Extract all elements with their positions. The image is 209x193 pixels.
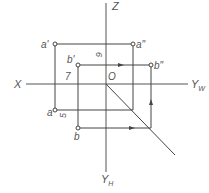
point-b-front <box>76 63 80 67</box>
label-a-side: a" <box>136 39 146 50</box>
arrow-right-icon <box>129 126 135 130</box>
point-b-top <box>76 126 80 130</box>
projection-diagram: X Z YW YH O a' a" a b' b" b 6 7 5 <box>0 0 209 193</box>
point-a-top <box>53 108 57 112</box>
label-b-top: b <box>74 131 80 142</box>
yw-axis-label: YW <box>191 78 206 92</box>
dimension-7: 7 <box>65 71 71 82</box>
45-degree-line <box>106 84 175 155</box>
arrow-up-icon <box>149 99 153 105</box>
label-a-front: a' <box>41 39 50 50</box>
dimension-5: 5 <box>58 112 68 118</box>
dimension-6: 6 <box>94 52 104 57</box>
yh-axis-label: YH <box>101 173 114 187</box>
point-a-front <box>53 42 57 46</box>
z-axis-label: Z <box>111 0 120 12</box>
point-b-side <box>149 63 153 67</box>
label-a-top: a <box>47 107 53 118</box>
label-b-side: b" <box>154 60 164 71</box>
point-a-side <box>131 42 135 46</box>
x-axis-label: X <box>13 78 22 90</box>
origin-label: O <box>108 71 116 82</box>
label-b-front: b' <box>67 54 76 65</box>
arrow-right-icon <box>118 63 124 67</box>
